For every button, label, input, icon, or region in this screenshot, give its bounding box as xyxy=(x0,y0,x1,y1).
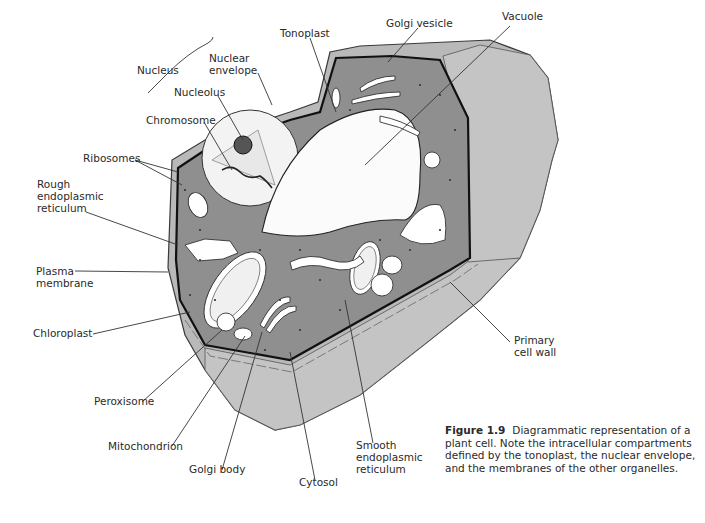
label-primary-cell-wall-2: cell wall xyxy=(514,346,556,358)
ribosome-dot xyxy=(349,109,351,111)
label-golgi-vesicle: Golgi vesicle xyxy=(386,17,453,29)
label-nuclear-envelope-2: envelope xyxy=(209,64,257,76)
label-tonoplast: Tonoplast xyxy=(279,27,330,39)
label-smooth-er-3: reticulum xyxy=(356,463,406,475)
ribosome-dot xyxy=(199,259,201,261)
label-chromosome: Chromosome xyxy=(146,114,216,126)
ribosome-dot xyxy=(184,189,186,191)
label-smooth-er-1: Smooth xyxy=(356,439,397,451)
ribosome-dot xyxy=(419,84,421,86)
nucleolus xyxy=(234,136,252,154)
ribosome-dot xyxy=(259,249,261,251)
ribosome-dot xyxy=(279,299,281,301)
label-nuclear-envelope-1: Nuclear xyxy=(209,52,250,64)
figure-caption: Figure 1.9Diagrammatic representation of… xyxy=(445,424,700,474)
label-rough-er-1: Rough xyxy=(37,178,70,190)
label-rough-er-3: reticulum xyxy=(37,202,87,214)
label-plasma-membrane-2: membrane xyxy=(36,277,93,289)
ribosome-dot xyxy=(299,249,301,251)
ribosome-dot xyxy=(199,229,201,231)
peroxisome-top-right xyxy=(424,152,440,168)
ribosome-dot xyxy=(339,309,341,311)
peroxisome-right xyxy=(371,274,393,296)
ribosome-dot xyxy=(409,249,411,251)
ribosome-dot xyxy=(439,229,441,231)
label-vacuole: Vacuole xyxy=(502,10,543,22)
label-golgi-body: Golgi body xyxy=(189,463,245,475)
label-cytosol: Cytosol xyxy=(299,476,338,488)
label-plasma-membrane-1: Plasma xyxy=(36,265,74,277)
ribosome-dot xyxy=(379,239,381,241)
mitochondrion-right xyxy=(382,256,402,274)
ribosome-dot xyxy=(449,179,451,181)
label-chloroplast: Chloroplast xyxy=(33,327,92,339)
label-primary-cell-wall-1: Primary xyxy=(514,334,555,346)
label-ribosomes: Ribosomes xyxy=(83,152,140,164)
label-mitochondrion: Mitochondrion xyxy=(108,440,183,452)
label-smooth-er-2: endoplasmic xyxy=(356,451,423,463)
figure-number: Figure 1.9 xyxy=(445,424,505,436)
ribosome-dot xyxy=(299,329,301,331)
label-nucleus: Nucleus xyxy=(137,64,179,76)
ribosome-dot xyxy=(214,299,216,301)
ribosome-dot xyxy=(454,129,456,131)
ribosome-dot xyxy=(319,279,321,281)
ribosome-dot xyxy=(264,349,266,351)
ribosome-dot xyxy=(189,294,191,296)
label-rough-er-2: endoplasmic xyxy=(37,190,104,202)
label-peroxisome: Peroxisome xyxy=(94,395,154,407)
peroxisome xyxy=(217,313,235,331)
label-nucleolus: Nucleolus xyxy=(174,86,225,98)
